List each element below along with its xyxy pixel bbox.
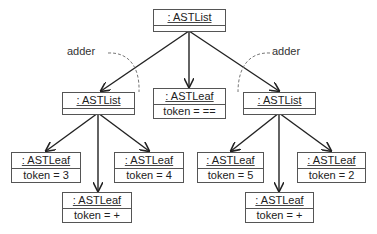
node-attr: token = == [154,105,225,118]
node-left-astlist: : ASTList [62,92,135,115]
node-leaf-3: : ASTLeaf token = 3 [11,152,81,183]
edge-right-list-leaf-5 [231,113,279,151]
adder-left-label: adder [67,45,95,57]
edge-right-list-leaf-2 [279,113,331,151]
node-attr [63,109,134,114]
node-name: : ASTLeaf [251,194,307,206]
node-name: : ASTList [72,94,124,106]
node-attr [244,109,315,114]
node-attr: token = + [246,209,313,222]
node-name: : ASTList [163,11,215,23]
node-leaf-4: : ASTLeaf token = 4 [114,152,184,183]
node-right-astlist: : ASTList [243,92,316,115]
node-attr: token = 4 [115,169,183,182]
node-name: : ASTLeaf [202,154,258,166]
adder-left-curve [108,53,139,92]
node-root-astlist: : ASTList [153,9,226,32]
node-name: : ASTLeaf [303,154,359,166]
edge-left-list-leaf-3 [46,113,98,151]
node-leaf-plus-right: : ASTLeaf token = + [245,192,314,223]
adder-right-curve [238,53,270,92]
node-leaf-5: : ASTLeaf token = 5 [197,152,264,183]
node-name: : ASTLeaf [18,154,74,166]
edge-root-left-list [101,31,189,91]
node-attr: token = 2 [298,169,365,182]
edge-left-list-leaf-4 [98,113,149,151]
node-name: : ASTLeaf [121,154,177,166]
node-name: : ASTList [253,94,305,106]
node-attr: token = 5 [198,169,263,182]
adder-right-label: adder [272,45,300,57]
node-attr: token = 3 [12,169,80,182]
edge-root-right-list [189,31,279,91]
node-leaf-2: : ASTLeaf token = 2 [297,152,366,183]
node-attr [154,26,225,31]
node-middle-astleaf: : ASTLeaf token = == [153,88,226,119]
node-name: : ASTLeaf [69,194,125,206]
node-attr: token = + [63,209,131,222]
node-leaf-plus-left: : ASTLeaf token = + [62,192,132,223]
node-name: : ASTLeaf [161,90,217,102]
